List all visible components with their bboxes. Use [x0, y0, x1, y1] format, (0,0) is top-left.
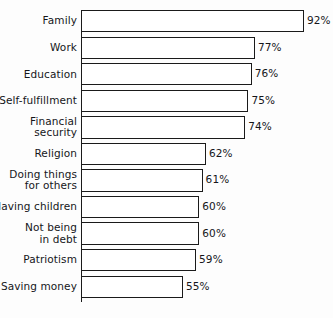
bar: [81, 63, 252, 85]
category-label: Work: [1, 37, 79, 59]
category-label: Having children: [1, 196, 79, 218]
bar: [81, 37, 255, 59]
horizontal-bar-chart: Family92%Work77%Education76%Self-fulfill…: [0, 0, 333, 318]
category-label: Not beingin debt: [1, 222, 79, 244]
bar-value-label: 62%: [209, 148, 233, 159]
bar: [81, 249, 196, 271]
bar: [81, 116, 245, 138]
category-label: Family: [1, 10, 79, 32]
category-label-line: Work: [50, 42, 77, 54]
bar: [81, 10, 304, 32]
bar-value-label: 75%: [251, 95, 275, 106]
category-label: Financialsecurity: [1, 116, 79, 138]
category-label: Education: [1, 63, 79, 85]
category-label: Saving money: [1, 276, 79, 298]
bar: [81, 169, 203, 191]
category-label-line: in debt: [39, 234, 77, 246]
bar-value-label: 60%: [202, 201, 226, 212]
category-label-line: Education: [24, 69, 77, 81]
category-label-line: Saving money: [1, 281, 77, 293]
category-label-line: Family: [43, 15, 77, 27]
category-label-line: Patriotism: [23, 254, 77, 266]
category-label-line: for others: [25, 180, 77, 192]
bar-value-label: 60%: [202, 228, 226, 239]
bar-value-label: 59%: [199, 254, 223, 265]
bar: [81, 276, 183, 298]
category-label: Doing thingsfor others: [1, 169, 79, 191]
bar-value-label: 74%: [248, 121, 272, 132]
category-label: Patriotism: [1, 249, 79, 271]
bar-value-label: 77%: [258, 42, 282, 53]
bar: [81, 196, 199, 218]
category-label: Religion: [1, 143, 79, 165]
category-label-line: security: [34, 127, 77, 139]
bar: [81, 222, 199, 244]
bar-value-label: 92%: [307, 15, 331, 26]
category-label-line: Self-fulfillment: [0, 95, 77, 107]
category-label-line: Religion: [34, 148, 77, 160]
bar: [81, 143, 206, 165]
bar: [81, 90, 248, 112]
bar-value-label: 61%: [206, 174, 230, 185]
bar-value-label: 55%: [186, 281, 210, 292]
bar-value-label: 76%: [255, 68, 279, 79]
category-label-line: Having children: [0, 201, 77, 213]
category-label-line: Not being: [25, 222, 77, 234]
category-label: Self-fulfillment: [1, 90, 79, 112]
